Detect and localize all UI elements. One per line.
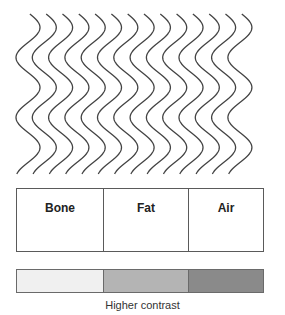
tissue-cell-bone: Bone (17, 189, 103, 251)
wave-line (163, 14, 187, 174)
wave-line (130, 14, 154, 174)
wave-line (32, 14, 56, 174)
wave-line (195, 14, 219, 174)
contrast-segment-fat (103, 270, 188, 292)
wave-line (81, 14, 105, 174)
wave-line (98, 14, 122, 174)
tissue-label-air: Air (189, 201, 263, 215)
contrast-caption: Higher contrast (0, 299, 285, 311)
wave-line (212, 14, 236, 174)
wave-line (49, 14, 73, 174)
tissue-cell-fat: Fat (103, 189, 188, 251)
tissue-panel: Bone Fat Air (16, 188, 264, 252)
wave-line (114, 14, 138, 174)
wave-line (16, 14, 40, 174)
wave-line (65, 14, 89, 174)
tissue-cell-air: Air (188, 189, 263, 251)
tissue-label-fat: Fat (104, 201, 188, 215)
wave-field (0, 0, 285, 180)
wave-line (228, 14, 252, 174)
wave-line (179, 14, 203, 174)
wave-line (146, 14, 170, 174)
contrast-bar (16, 269, 264, 293)
contrast-segment-air (188, 270, 263, 292)
tissue-label-bone: Bone (17, 201, 103, 215)
contrast-segment-bone (17, 270, 103, 292)
